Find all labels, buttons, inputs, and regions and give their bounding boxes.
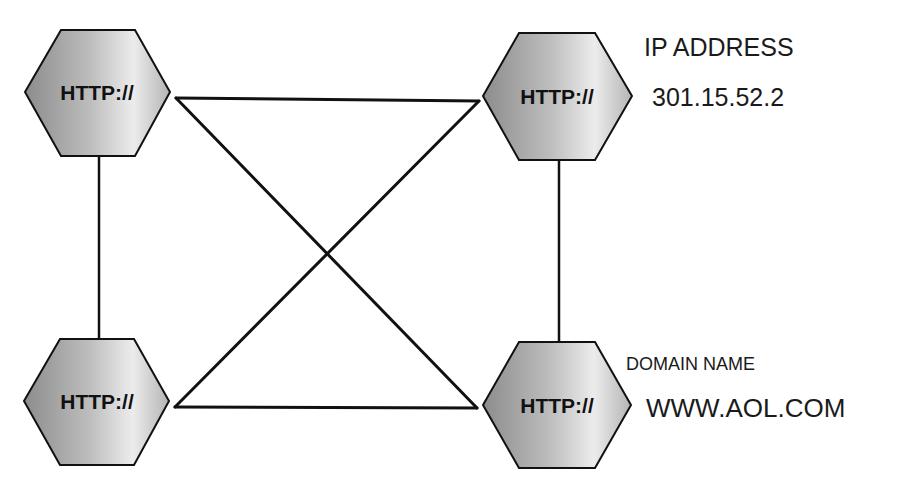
node-label: HTTP:// — [60, 390, 134, 413]
network-diagram: HTTP:// HTTP:// HTTP:// HTTP:// — [0, 0, 911, 500]
ip-address-heading: IP ADDRESS — [644, 33, 794, 62]
node-label: HTTP:// — [60, 81, 134, 104]
node-bottom-left: HTTP:// — [24, 339, 169, 465]
node-top-right: HTTP:// — [483, 33, 632, 160]
domain-name-heading: DOMAIN NAME — [626, 354, 755, 375]
ip-address-value: 301.15.52.2 — [652, 83, 784, 112]
node-label: HTTP:// — [520, 394, 594, 417]
edge-bottom — [175, 407, 477, 408]
connections — [99, 98, 559, 408]
node-top-left: HTTP:// — [25, 30, 170, 156]
edge-top — [176, 98, 479, 101]
node-bottom-right: HTTP:// — [483, 342, 631, 468]
domain-name-value: WWW.AOL.COM — [646, 393, 845, 424]
node-label: HTTP:// — [520, 85, 594, 108]
